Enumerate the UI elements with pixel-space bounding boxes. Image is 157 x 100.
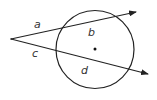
label-b: b xyxy=(88,26,95,39)
upper-secant xyxy=(11,12,136,39)
secant-diagram: a b c d xyxy=(0,0,157,100)
label-c: c xyxy=(32,47,38,60)
label-a: a xyxy=(34,18,41,31)
center-point xyxy=(94,48,97,51)
external-point xyxy=(10,38,12,40)
label-d: d xyxy=(81,64,89,77)
